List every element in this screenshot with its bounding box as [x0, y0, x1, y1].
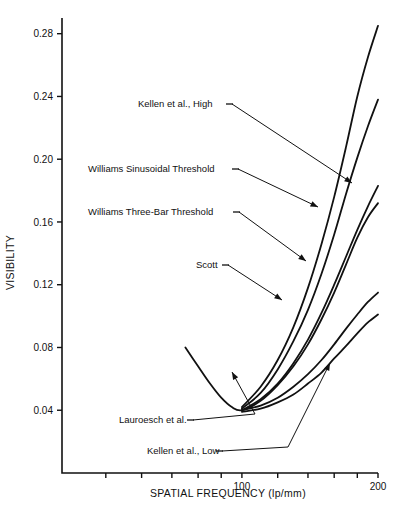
- curve-label: Kellen et al., High: [138, 98, 212, 109]
- y-tick-label: 0.28: [34, 28, 54, 39]
- y-tick-label: 0.12: [34, 279, 54, 290]
- curve-label: Scott: [196, 259, 218, 270]
- curve-label: Kellen et al., Low: [147, 445, 219, 456]
- curve-label: Lauroesch et al.: [119, 414, 187, 425]
- curve-label: Williams Three-Bar Threshold: [88, 206, 213, 217]
- chart-figure: 0.040.080.120.160.200.240.28 100200 Kell…: [0, 0, 406, 516]
- y-tick-label: 0.04: [34, 405, 54, 416]
- y-tick-label: 0.08: [34, 342, 54, 353]
- curve-label: Williams Sinusoidal Threshold: [88, 163, 215, 174]
- y-tick-label: 0.24: [34, 91, 54, 102]
- y-tick-label: 0.20: [34, 154, 54, 165]
- visibility-vs-spatial-frequency-chart: 0.040.080.120.160.200.240.28 100200 Kell…: [0, 0, 406, 516]
- x-axis-title: SPATIAL FREQUENCY (lp/mm): [150, 487, 306, 499]
- y-axis-title: VISIBILITY: [4, 235, 16, 290]
- y-tick-label: 0.16: [34, 217, 54, 228]
- x-tick-label: 200: [370, 481, 387, 492]
